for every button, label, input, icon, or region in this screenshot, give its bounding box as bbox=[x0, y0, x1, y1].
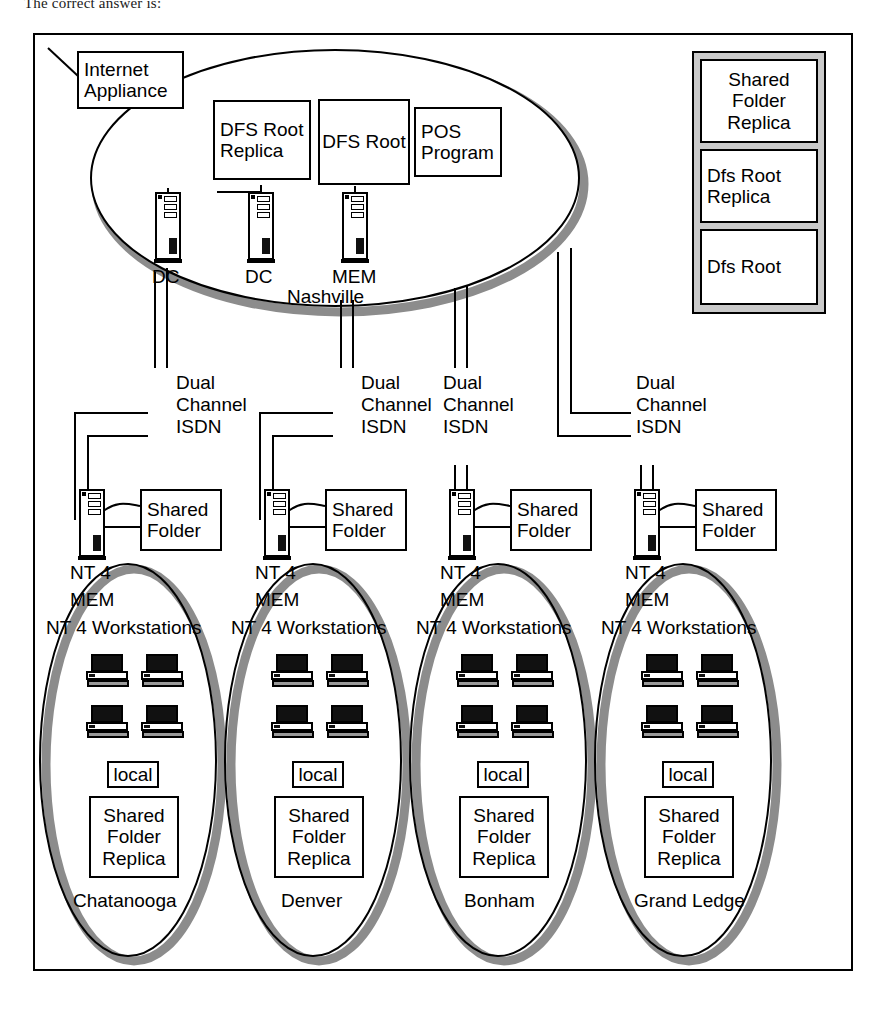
server-indicator-icon bbox=[278, 535, 286, 551]
workstation-icon[interactable] bbox=[86, 654, 130, 688]
desktop-case-icon bbox=[271, 671, 313, 680]
shared-folder-bonham-line1: Shared bbox=[517, 499, 578, 520]
shared-folder-chatanooga-line2: Folder bbox=[147, 520, 201, 541]
local-box-bonham[interactable]: local bbox=[477, 761, 529, 788]
shared-folder-box-grand-ledge[interactable]: Shared Folder bbox=[695, 489, 777, 551]
monitor-icon bbox=[91, 654, 123, 672]
workstation-icon[interactable] bbox=[456, 654, 500, 688]
workstation-icon[interactable] bbox=[456, 705, 500, 739]
monitor-icon bbox=[146, 705, 178, 723]
workstation-icon[interactable] bbox=[696, 654, 740, 688]
server-power-led-icon bbox=[82, 492, 86, 496]
keyboard-icon bbox=[457, 731, 499, 738]
keyboard-icon bbox=[697, 680, 739, 687]
legend-dfs-root-line1: Dfs Root bbox=[707, 256, 781, 277]
shared-folder-box-bonham[interactable]: Shared Folder bbox=[510, 489, 592, 551]
workstation-icon[interactable] bbox=[641, 654, 685, 688]
shared-folder-replica-box-grand-ledge[interactable]: Shared Folder Replica bbox=[644, 796, 734, 878]
workstation-icon[interactable] bbox=[141, 654, 185, 688]
server-base-icon bbox=[341, 259, 369, 263]
legend-item-dfs-root[interactable]: Dfs Root bbox=[700, 229, 818, 305]
legend-item-shared-folder-replica[interactable]: Shared Folder Replica bbox=[700, 59, 818, 143]
hub-server-dc-1-label: DC bbox=[152, 266, 179, 288]
workstation-icon[interactable] bbox=[696, 705, 740, 739]
monitor-icon bbox=[516, 705, 548, 723]
keyboard-icon bbox=[142, 731, 184, 738]
branch-server-bonham[interactable] bbox=[449, 489, 475, 561]
workstation-icon[interactable] bbox=[326, 654, 370, 688]
shared-folder-box-denver[interactable]: Shared Folder bbox=[325, 489, 407, 551]
monitor-icon bbox=[701, 654, 733, 672]
site-name-denver: Denver bbox=[281, 890, 342, 912]
desktop-case-icon bbox=[86, 671, 128, 680]
desktop-case-icon bbox=[456, 722, 498, 731]
link-label-grand-ledge: Dual Channel ISDN bbox=[636, 372, 707, 438]
server-indicator-icon bbox=[356, 238, 364, 254]
shared-folder-replica-box-chatanooga[interactable]: Shared Folder Replica bbox=[89, 796, 179, 878]
server-drive-bays-icon bbox=[643, 493, 656, 517]
keyboard-icon bbox=[642, 731, 684, 738]
branch-role-denver: MEM bbox=[255, 589, 299, 611]
server-power-led-icon bbox=[637, 492, 641, 496]
hub-server-mem[interactable] bbox=[342, 192, 368, 264]
shared-folder-replica-box-denver[interactable]: Shared Folder Replica bbox=[274, 796, 364, 878]
keyboard-icon bbox=[327, 680, 369, 687]
keyboard-icon bbox=[272, 731, 314, 738]
shared-folder-box-chatanooga[interactable]: Shared Folder bbox=[140, 489, 222, 551]
server-indicator-icon bbox=[262, 238, 270, 254]
legend-dfs-root-replica-line1: Dfs Root bbox=[707, 165, 781, 186]
server-base-icon bbox=[263, 556, 291, 560]
hub-server-dc-1[interactable] bbox=[155, 192, 181, 264]
local-box-denver[interactable]: local bbox=[292, 761, 344, 788]
dfs-root-box[interactable]: DFS Root bbox=[318, 99, 410, 185]
internet-appliance-box[interactable]: Internet Appliance bbox=[77, 51, 184, 109]
keyboard-icon bbox=[512, 680, 554, 687]
desktop-case-icon bbox=[641, 722, 683, 731]
dfs-root-replica-line2: Replica bbox=[220, 140, 283, 161]
server-power-led-icon bbox=[158, 195, 162, 199]
branch-server-denver[interactable] bbox=[264, 489, 290, 561]
branch-role-grand-ledge: MEM bbox=[625, 589, 669, 611]
keyboard-icon bbox=[642, 680, 684, 687]
server-base-icon bbox=[247, 259, 275, 263]
workstation-icon[interactable] bbox=[86, 705, 130, 739]
monitor-icon bbox=[646, 654, 678, 672]
keyboard-icon bbox=[512, 731, 554, 738]
desktop-case-icon bbox=[141, 671, 183, 680]
monitor-icon bbox=[276, 705, 308, 723]
keyboard-icon bbox=[87, 731, 129, 738]
replica-grand-ledge-line1: Shared bbox=[658, 805, 719, 826]
desktop-case-icon bbox=[456, 671, 498, 680]
replica-bonham-line1: Shared bbox=[473, 805, 534, 826]
desktop-case-icon bbox=[141, 722, 183, 731]
link-label-chatanooga: Dual Channel ISDN bbox=[176, 372, 247, 438]
dfs-root-replica-line1: DFS Root bbox=[220, 119, 303, 140]
monitor-icon bbox=[91, 705, 123, 723]
replica-denver-line1: Shared bbox=[288, 805, 349, 826]
shared-folder-denver-line1: Shared bbox=[332, 499, 393, 520]
local-box-chatanooga[interactable]: local bbox=[107, 761, 159, 788]
server-base-icon bbox=[633, 556, 661, 560]
workstation-icon[interactable] bbox=[271, 654, 315, 688]
workstation-icon[interactable] bbox=[141, 705, 185, 739]
local-box-grand-ledge[interactable]: local bbox=[662, 761, 714, 788]
branch-server-chatanooga[interactable] bbox=[79, 489, 105, 561]
workstation-icon[interactable] bbox=[271, 705, 315, 739]
workstation-icon[interactable] bbox=[326, 705, 370, 739]
server-base-icon bbox=[154, 259, 182, 263]
link-grand-ledge-line3: ISDN bbox=[636, 416, 707, 438]
keyboard-icon bbox=[142, 680, 184, 687]
legend-item-dfs-root-replica[interactable]: Dfs Root Replica bbox=[700, 149, 818, 223]
workstation-icon[interactable] bbox=[641, 705, 685, 739]
shared-folder-grand-ledge-line1: Shared bbox=[702, 499, 763, 520]
workstation-icon[interactable] bbox=[511, 654, 555, 688]
server-drive-bays-icon bbox=[458, 493, 471, 517]
pos-program-box[interactable]: POS Program bbox=[414, 107, 502, 177]
dfs-root-replica-box[interactable]: DFS Root Replica bbox=[213, 100, 311, 180]
workstation-icon[interactable] bbox=[511, 705, 555, 739]
hub-server-dc-2[interactable] bbox=[248, 192, 274, 264]
link-bonham-line3: ISDN bbox=[443, 416, 514, 438]
shared-folder-replica-box-bonham[interactable]: Shared Folder Replica bbox=[459, 796, 549, 878]
internet-appliance-label-line1: Internet Appliance bbox=[84, 59, 177, 102]
branch-server-grand-ledge[interactable] bbox=[634, 489, 660, 561]
